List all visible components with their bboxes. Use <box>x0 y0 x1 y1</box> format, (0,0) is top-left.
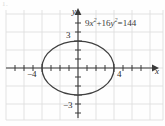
ellipse-graph-figure: 1. <box>0 0 165 126</box>
x-axis-name: x <box>155 67 159 76</box>
x-tick-label-4: 4 <box>117 70 122 79</box>
x-tick-label-negative-4: −4 <box>27 70 37 79</box>
y-axis-name: y <box>72 7 76 16</box>
y-tick-label-negative-3: −3 <box>63 101 73 110</box>
equation-coeff-y: 16 <box>102 18 111 28</box>
equation-annotation: 9x2+16y2=144 <box>85 19 136 28</box>
coordinate-plane <box>0 0 165 126</box>
y-axis <box>75 8 82 118</box>
y-tick-label-3: 3 <box>66 31 71 40</box>
equation-rhs: 144 <box>123 18 137 28</box>
